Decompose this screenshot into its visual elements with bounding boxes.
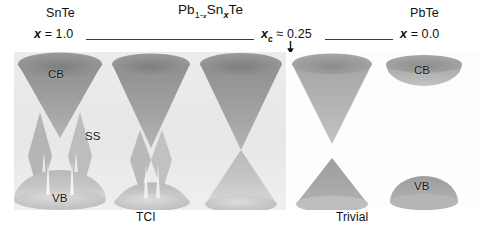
figure-footer: TCI Trivial [0, 206, 480, 234]
figure-header: Pb1-xSnxTe SnTe x = 1.0 xc ≈ 0.25 PbTe x… [0, 0, 480, 52]
label-conduction-band-pbte: CB [414, 64, 430, 76]
axis-line-right [325, 39, 393, 40]
axis-line-left [86, 39, 254, 40]
left-material-label: SnTe [46, 6, 75, 20]
panel-strip: CB SS VB CB VB [0, 52, 480, 210]
panel-trivial-small-gap [292, 54, 372, 211]
phase-label-trivial: Trivial [336, 210, 368, 224]
band-structure-figure: Pb1-xSnxTe SnTe x = 1.0 xc ≈ 0.25 PbTe x… [0, 0, 480, 234]
right-composition-label: x = 0.0 [400, 27, 439, 41]
panel-tci-intermediate [112, 54, 190, 211]
label-valence-band-pbte: VB [414, 180, 429, 192]
phase-label-tci: TCI [136, 210, 156, 224]
label-valence-band-snte: VB [52, 192, 67, 204]
label-conduction-band-snte: CB [48, 68, 64, 80]
left-composition-label: x = 1.0 [34, 27, 73, 41]
compound-title: Pb1-xSnxTe [178, 2, 243, 20]
panel-critical [200, 53, 282, 210]
label-surface-states: SS [85, 130, 100, 142]
right-material-label: PbTe [410, 6, 439, 20]
